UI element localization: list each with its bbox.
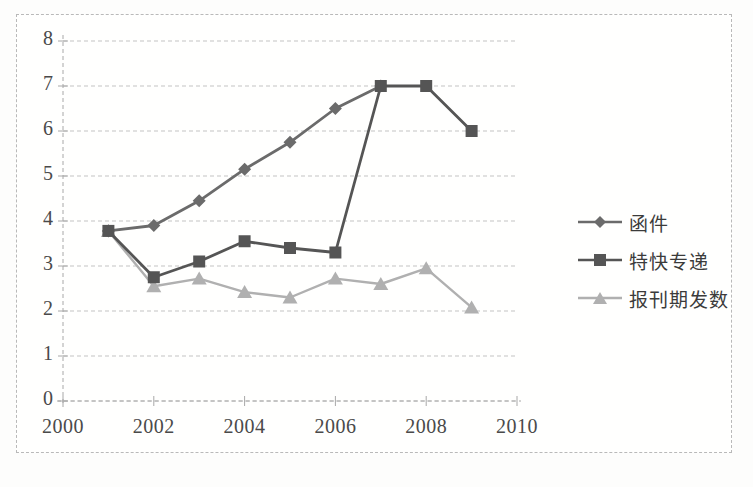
legend-label: 特快专递: [629, 247, 709, 274]
series-2: [102, 80, 477, 283]
triangle-marker-icon: [577, 290, 623, 306]
data-point-marker: [419, 261, 434, 274]
x-axis-tick-label: 2008: [391, 415, 461, 438]
data-point-marker: [420, 80, 432, 92]
legend-label: 报刊期发数: [629, 285, 729, 312]
legend-item-baokanqifashu: 报刊期发数: [577, 279, 752, 317]
data-point-marker: [192, 272, 207, 285]
data-point-marker: [193, 256, 205, 268]
figure-caption: [0, 470, 753, 487]
y-axis-tick-label: 0: [23, 387, 53, 410]
data-point-marker: [148, 271, 160, 283]
data-point-marker: [329, 247, 341, 259]
data-point-marker: [102, 225, 114, 237]
square-marker-icon: [577, 252, 623, 268]
legend-label: 函件: [629, 209, 669, 236]
legend-item-tekuaizhuandi: 特快专递: [577, 241, 752, 279]
y-axis-tick-label: 6: [23, 117, 53, 140]
x-axis-tick-label: 2004: [210, 415, 280, 438]
series-1: [102, 80, 387, 238]
y-axis-tick-label: 7: [23, 72, 53, 95]
y-axis-tick-label: 3: [23, 252, 53, 275]
y-axis-tick-label: 5: [23, 162, 53, 185]
gridlines: [63, 41, 517, 401]
x-axis-tick-label: 2010: [482, 415, 552, 438]
y-axis-tick-label: 1: [23, 342, 53, 365]
y-axis-tick-label: 4: [23, 207, 53, 230]
series-3: [101, 224, 479, 314]
y-axis-tick-label: 2: [23, 297, 53, 320]
legend-item-hanjian: 函件: [577, 203, 752, 241]
x-axis-tick-label: 2002: [119, 415, 189, 438]
x-axis-tick-label: 2006: [300, 415, 370, 438]
data-point-marker: [284, 242, 296, 254]
y-axis-tick-label: 8: [23, 27, 53, 50]
chart-legend: 函件 特快专递 报刊期发数: [577, 203, 752, 317]
data-point-marker: [375, 80, 387, 92]
x-axis-tick-label: 2000: [28, 415, 98, 438]
data-point-marker: [466, 125, 478, 137]
chart-frame: 876543210 200020022004200620082010 函件 特快…: [16, 14, 732, 453]
data-series: [101, 80, 479, 314]
diamond-marker-icon: [577, 214, 623, 230]
data-point-marker: [239, 235, 251, 247]
